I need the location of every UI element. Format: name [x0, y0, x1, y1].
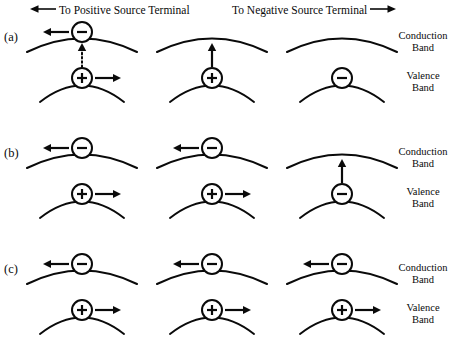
valence-carrier-plus-a2	[202, 68, 222, 88]
negative-terminal-label: To Negative Source Terminal	[232, 2, 396, 17]
positive-terminal-label: To Positive Source Terminal	[30, 2, 190, 17]
valence-carrier-minus-a3	[332, 68, 352, 88]
transition-arrow-dotted-a1	[78, 43, 86, 67]
negative-terminal-text: To Negative Source Terminal	[232, 4, 367, 16]
valence-motion-arrow-right-c1	[95, 306, 121, 314]
transition-arrow-solid-a2	[208, 43, 216, 67]
conduction-motion-arrow-left-c2	[173, 260, 199, 268]
valence-carrier-minus-b3	[332, 184, 352, 204]
valence-carrier-plus-a1	[72, 68, 92, 88]
valence-motion-arrow-right-b1	[95, 190, 121, 198]
conduction-carrier-minus-c2	[202, 254, 222, 274]
band-diagram-figure: To Positive Source Terminal To Negative …	[0, 0, 464, 350]
valence-motion-arrow-right-a1	[95, 74, 121, 82]
valence-carrier-plus-b1	[72, 184, 92, 204]
conduction-carrier-minus-b1	[72, 138, 92, 158]
conduction-motion-arrow-left-a1	[43, 28, 69, 36]
valence-carrier-plus-c3	[332, 300, 352, 320]
row-label-c: (c)	[4, 262, 18, 276]
conduction-motion-arrow-left-c1	[43, 260, 69, 268]
band-panel-c3	[288, 250, 408, 346]
conduction-carrier-minus-b2	[202, 138, 222, 158]
band-panel-c1	[28, 250, 148, 346]
valence-carrier-plus-c2	[202, 300, 222, 320]
band-panel-a1	[28, 18, 148, 114]
long-arrow-right-icon	[370, 3, 396, 17]
valence-motion-arrow-right-c2	[225, 306, 251, 314]
conduction-band-arc	[287, 39, 397, 53]
conduction-carrier-minus-a1	[72, 22, 92, 42]
valence-motion-arrow-right-b2	[225, 190, 251, 198]
valence-carrier-plus-c1	[72, 300, 92, 320]
conduction-motion-arrow-left-c3	[303, 260, 329, 268]
row-label-a: (a)	[4, 30, 18, 44]
transition-arrow-solid-b3	[338, 159, 346, 183]
conduction-carrier-minus-c1	[72, 254, 92, 274]
band-panel-b2	[158, 134, 278, 230]
band-panel-a3	[288, 18, 408, 114]
valence-motion-arrow-right-c3	[355, 306, 381, 314]
row-label-b: (b)	[4, 146, 19, 160]
long-arrow-left-icon	[30, 3, 56, 17]
conduction-motion-arrow-left-b1	[43, 144, 69, 152]
band-panel-b3	[288, 134, 408, 230]
conduction-carrier-minus-c3	[332, 254, 352, 274]
band-panel-c2	[158, 250, 278, 346]
positive-terminal-text: To Positive Source Terminal	[59, 4, 190, 16]
band-panel-b1	[28, 134, 148, 230]
conduction-motion-arrow-left-b2	[173, 144, 199, 152]
valence-carrier-plus-b2	[202, 184, 222, 204]
band-panel-a2	[158, 18, 278, 114]
